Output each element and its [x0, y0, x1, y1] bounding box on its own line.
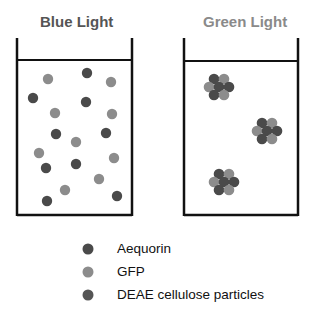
gfp-particle	[107, 109, 117, 119]
gfp-particle	[34, 148, 44, 158]
deae-cluster	[252, 118, 283, 145]
gfp-particle	[94, 174, 104, 184]
deae-cluster	[209, 169, 240, 196]
gfp-particle	[50, 108, 60, 118]
legend-label-gfp: GFP	[117, 264, 145, 279]
aequorin-particle	[51, 129, 61, 139]
aequorin-particle	[42, 196, 52, 206]
left-beaker	[17, 38, 132, 216]
aequorin-particle	[82, 68, 92, 78]
gfp-particle	[267, 134, 278, 145]
legend-label-aequorin: Aequorin	[117, 241, 171, 256]
legend-markers	[83, 244, 94, 301]
particle-clusters	[204, 74, 283, 196]
aequorin-particle	[41, 163, 51, 173]
aequorin-particle	[28, 93, 38, 103]
gfp-particle	[224, 185, 235, 196]
aequorin-particle	[257, 134, 268, 145]
aequorin-particle	[71, 159, 81, 169]
gfp-particle	[109, 153, 119, 163]
aequorin-particle	[214, 185, 225, 196]
gfp-particle	[71, 137, 81, 147]
aequorin-particle	[112, 191, 122, 201]
beaker-diagram	[0, 0, 309, 314]
gfp-particle	[219, 90, 230, 101]
free-particles	[28, 68, 122, 206]
aequorin-particle	[209, 90, 220, 101]
legend-dot-0	[83, 244, 94, 255]
legend-dot-1	[83, 267, 94, 278]
aequorin-particle	[101, 128, 111, 138]
gfp-particle	[43, 74, 53, 84]
aequorin-particle	[81, 97, 91, 107]
deae-cluster	[204, 74, 235, 101]
legend-label-deae: DEAE cellulose particles	[117, 287, 264, 302]
gfp-particle	[60, 185, 70, 195]
gfp-particle	[106, 77, 116, 87]
legend-dot-2	[83, 290, 94, 301]
right-beaker	[184, 38, 298, 216]
